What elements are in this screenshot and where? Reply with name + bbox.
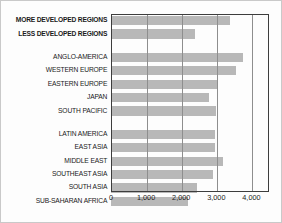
category-label: EAST ASIA [13, 143, 111, 152]
x-tick-label: 1,000 [137, 193, 155, 203]
bar [111, 130, 215, 139]
bar-track [111, 64, 269, 77]
bar-track [111, 155, 269, 168]
category-label: JAPAN [13, 93, 111, 102]
chart-row: MIDDLE EAST [7, 155, 269, 168]
category-label: SOUTH ASIA [13, 183, 111, 192]
bar-track [111, 141, 269, 154]
bar-chart: MORE DEVELOPED REGIONSLESS DEVELOPED REG… [1, 1, 282, 223]
bar-track [111, 128, 269, 141]
bar [111, 183, 197, 192]
chart-row: JAPAN [7, 91, 269, 104]
bar-track [111, 51, 269, 64]
bar-track [111, 91, 269, 104]
bar [111, 157, 223, 166]
bar [111, 80, 218, 89]
x-tick-label: 0 [109, 193, 113, 203]
bar [111, 93, 209, 102]
chart-row: LATIN AMERICA [7, 128, 269, 141]
category-label: MIDDLE EAST [13, 157, 111, 166]
chart-figure: MORE DEVELOPED REGIONSLESS DEVELOPED REG… [0, 0, 282, 223]
category-label: LESS DEVELOPED REGIONS [13, 30, 111, 39]
chart-row: SOUTH PACIFIC [7, 104, 269, 117]
bar-track [111, 78, 269, 91]
chart-row: EASTERN EUROPE [7, 78, 269, 91]
category-label: SUB-SAHARAN AFRICA [13, 197, 111, 206]
bar [111, 53, 243, 62]
bar-track [111, 104, 269, 117]
row-spacer [7, 41, 269, 51]
x-axis: 01,0002,0003,0004,000 [111, 193, 269, 205]
bar-track [111, 14, 269, 27]
chart-row: SOUTHEAST ASIA [7, 168, 269, 181]
bar [111, 66, 236, 75]
chart-row: LESS DEVELOPED REGIONS [7, 27, 269, 40]
bar [111, 29, 195, 38]
category-label: WESTERN EUROPE [13, 66, 111, 75]
x-tick-label: 3,000 [207, 193, 225, 203]
chart-row: ANGLO-AMERICA [7, 51, 269, 64]
bar-track [111, 27, 269, 40]
category-label: MORE DEVELOPED REGIONS [13, 16, 111, 25]
bar [111, 16, 230, 25]
bar [111, 143, 215, 152]
category-label: EASTERN EUROPE [13, 80, 111, 89]
chart-row: WESTERN EUROPE [7, 64, 269, 77]
chart-row: MORE DEVELOPED REGIONS [7, 14, 269, 27]
chart-rows: MORE DEVELOPED REGIONSLESS DEVELOPED REG… [7, 14, 269, 192]
category-label: ANGLO-AMERICA [13, 53, 111, 62]
bar [111, 170, 213, 179]
category-label: SOUTHEAST ASIA [13, 170, 111, 179]
category-label: LATIN AMERICA [13, 130, 111, 139]
row-spacer [7, 118, 269, 128]
x-tick-label: 2,000 [172, 193, 190, 203]
chart-row: EAST ASIA [7, 141, 269, 154]
x-tick-label: 4,000 [242, 193, 260, 203]
category-label: SOUTH PACIFIC [13, 107, 111, 116]
bar [111, 106, 216, 115]
bar-track [111, 168, 269, 181]
